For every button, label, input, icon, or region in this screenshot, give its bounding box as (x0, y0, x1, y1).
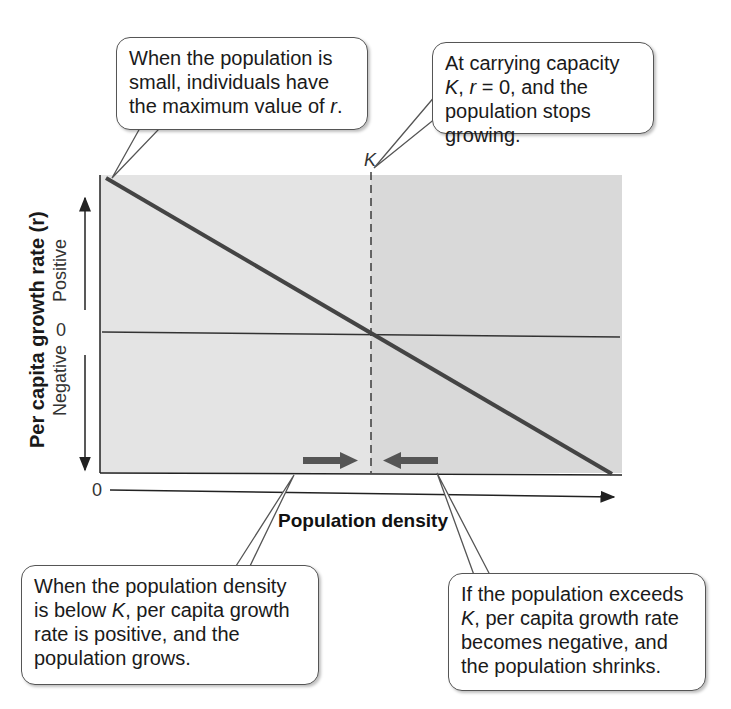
callout-var: K (445, 76, 458, 98)
callout-bottom-left: When the population density is below K, … (21, 565, 319, 685)
callout-text: If the population exceeds (461, 583, 683, 605)
y-positive-label: Positive (50, 239, 71, 302)
y-negative-label: Negative (50, 345, 71, 416)
callout-text: , (458, 76, 469, 98)
callout-var: K (461, 607, 474, 629)
callout-top-right: At carrying capacity K, r = 0, and the p… (432, 42, 654, 134)
callout-tail-top-left (112, 128, 160, 178)
y-axis-label: Per capita growth rate (r) (26, 211, 49, 448)
callout-bottom-right: If the population exceeds K, per capita … (448, 573, 706, 691)
callout-top-left: When the population is small, individual… (116, 37, 368, 130)
x-zero-label: 0 (92, 480, 102, 501)
x-axis-arrow-icon (110, 490, 614, 497)
callout-text: At carrying capacity (445, 52, 620, 74)
callout-tail-top-right (374, 95, 436, 168)
y-axis-label-text: Per capita growth rate (r) (26, 211, 48, 448)
plot-area-right (371, 175, 622, 473)
callout-text: , per capita growth rate becomes negativ… (461, 607, 679, 677)
plot-bottom-border (100, 473, 622, 475)
callout-var: r (330, 95, 337, 117)
k-label: K (364, 150, 376, 171)
callout-text: When the population is small, individual… (129, 47, 332, 117)
callout-var: K (112, 599, 125, 621)
plot-area-left (100, 175, 371, 473)
x-axis-label: Population density (278, 510, 448, 532)
y-zero-label: 0 (56, 320, 66, 341)
callout-text: . (337, 95, 343, 117)
